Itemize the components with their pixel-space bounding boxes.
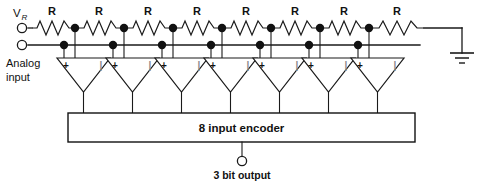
comparator-6[interactable]: + | [302,58,355,113]
comparator-plus-input-6: + [308,60,314,71]
comparator-plus-input-7: + [357,60,363,71]
comparator-plus-input-1: + [63,60,69,71]
resistor-label-2: R [95,5,103,17]
ref-node-dot-2 [120,24,128,32]
resistor-1 [32,21,73,35]
analog-node-dot-1 [60,41,68,49]
resistor-label-3: R [144,5,152,17]
ref-node-dot-3 [169,24,177,32]
analog-node-dot-6 [305,41,313,49]
comparator-minus-input-1: | [100,60,103,71]
analog-node-dot-4 [207,41,215,49]
comparator-minus-input-6: | [345,60,348,71]
resistor-label-4: R [193,5,201,17]
resistor-5 [226,21,267,35]
comparator-minus-input-5: | [296,60,299,71]
encoder-block[interactable]: 8 input encoder [68,113,415,142]
comparator-minus-input-2: | [149,60,152,71]
analog-input-terminal[interactable] [17,40,26,49]
comparator-7[interactable]: + | [351,58,404,113]
ref-node-dot-6 [316,24,324,32]
output-label: 3 bit output [213,169,271,181]
resistor-label-1: R [48,5,56,17]
comparator-plus-input-4: + [210,60,216,71]
resistor-6 [275,21,316,35]
resistor-3 [128,21,169,35]
comparator-3[interactable]: + | [155,58,208,113]
input-terminals [17,23,26,49]
ground-symbol [450,28,474,63]
comparator-plus-input-2: + [112,60,118,71]
vref-label: V [13,7,21,19]
resistor-label-6: R [291,5,299,17]
output-group: 3 bit output [213,142,271,181]
ref-node-dot-5 [267,24,275,32]
resistor-label-5: R [242,5,250,17]
vref-terminal[interactable] [17,23,26,32]
circuit-svg: R R R R R R R R [0,0,481,184]
resistor-8 [373,21,424,35]
comparator-plus-input-3: + [161,60,167,71]
analog-node-dot-7 [354,41,362,49]
resistor-4 [177,21,218,35]
comparator-1[interactable]: + | [57,58,110,113]
comparator-plus-input-5: + [259,60,265,71]
comparator-minus-input-3: | [198,60,201,71]
analog-input-label-line2: input [6,71,30,83]
ref-node-dot-1 [71,24,79,32]
comparator-bank: + | + | + | + | [57,58,404,113]
resistor-2 [79,21,120,35]
reference-ladder [28,21,462,35]
analog-input-label-line1: Analog [6,57,40,69]
resistor-labels: R R R R R R R R [48,5,401,17]
resistor-7 [324,21,365,35]
analog-node-dot-5 [256,41,264,49]
ref-node-dot-7 [365,24,373,32]
resistor-label-8: R [393,5,401,17]
comparator-minus-input-4: | [247,60,250,71]
comparator-2[interactable]: + | [106,58,159,113]
reference-tap-risers [75,28,369,58]
flash-adc-diagram: R R R R R R R R [0,0,481,184]
analog-node-dot-2 [109,41,117,49]
resistor-label-7: R [340,5,348,17]
output-terminal[interactable] [237,156,246,165]
analog-node-dot-3 [158,41,166,49]
comparator-5[interactable]: + | [253,58,306,113]
comparator-minus-input-7: | [394,60,397,71]
encoder-label: 8 input encoder [199,122,285,134]
comparator-4[interactable]: + | [204,58,257,113]
vref-subscript-label: R [22,13,28,22]
ref-node-dot-4 [218,24,226,32]
